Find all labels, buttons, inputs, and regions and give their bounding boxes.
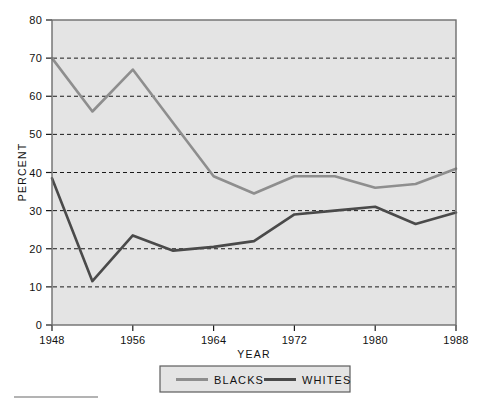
chart-figure: 01020304050607080 1948195619641972198019… [0, 0, 480, 407]
x-tick-label-1948: 1948 [39, 334, 64, 346]
x-tick-label-1956: 1956 [120, 334, 145, 346]
y-tick-label-40: 40 [29, 167, 42, 179]
y-tick-label-20: 20 [29, 243, 42, 255]
y-axis-tick-labels-group: 01020304050607080 [29, 14, 42, 331]
y-tick-label-80: 80 [29, 14, 42, 26]
line-chart-svg: 01020304050607080 1948195619641972198019… [0, 0, 480, 407]
y-tick-label-50: 50 [29, 128, 42, 140]
y-tick-label-10: 10 [29, 281, 42, 293]
y-axis-title: PERCENT [16, 143, 28, 202]
y-tick-label-70: 70 [29, 52, 42, 64]
x-tick-label-1964: 1964 [201, 334, 226, 346]
y-tick-label-60: 60 [29, 90, 42, 102]
x-tick-label-1972: 1972 [282, 334, 307, 346]
x-axis-title: YEAR [237, 348, 270, 360]
y-tick-label-0: 0 [36, 319, 42, 331]
y-tick-label-30: 30 [29, 205, 42, 217]
legend-label-blacks: BLACKS [214, 374, 264, 386]
x-tick-label-1988: 1988 [443, 334, 468, 346]
x-tick-label-1980: 1980 [363, 334, 388, 346]
legend-label-whites: WHITES [302, 374, 351, 386]
